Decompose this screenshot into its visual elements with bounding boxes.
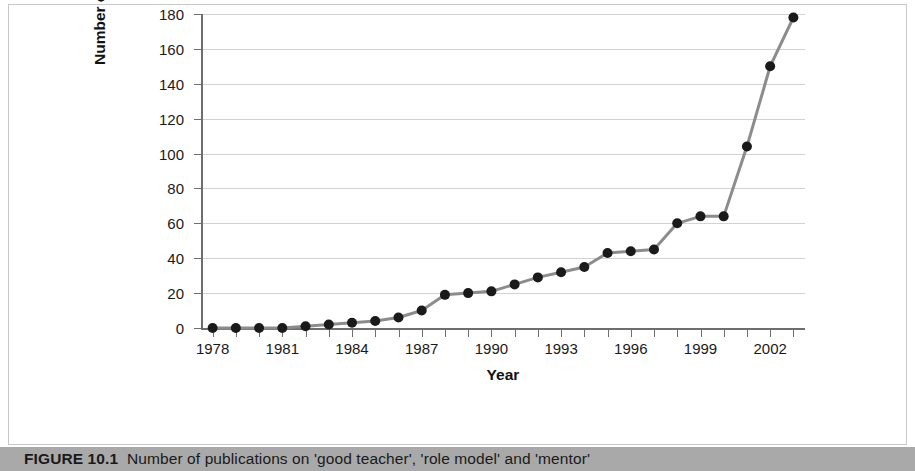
x-axis-tick-label: 2002 (754, 340, 787, 357)
y-axis-tick: 20 (194, 293, 201, 294)
x-axis-tick-label: 1990 (475, 340, 508, 357)
data-point-marker (277, 323, 287, 333)
x-axis-tick (677, 329, 678, 337)
y-axis-tick-label: 60 (167, 215, 184, 232)
y-axis-tick: 180 (194, 14, 201, 15)
data-point-marker (231, 323, 241, 333)
data-point-marker (556, 267, 566, 277)
data-point-marker (417, 306, 427, 316)
data-point-marker (486, 286, 496, 296)
y-axis-tick-label: 160 (159, 40, 184, 57)
data-point-marker (719, 211, 729, 221)
x-axis-tick-label: 1999 (684, 340, 717, 357)
y-axis-tick: 80 (194, 188, 201, 189)
x-axis-tick (724, 329, 725, 337)
y-axis-tick-label: 40 (167, 250, 184, 267)
x-axis-tick (399, 329, 400, 337)
x-axis-tick (631, 329, 632, 337)
x-axis-tick (747, 329, 748, 337)
data-point-marker (347, 318, 357, 328)
x-axis-tick (352, 329, 353, 337)
x-axis-tick-label: 1978 (196, 340, 229, 357)
data-point-marker (533, 272, 543, 282)
y-axis-tick-label: 0 (176, 320, 184, 337)
data-point-marker (324, 320, 334, 330)
y-axis-tick: 120 (194, 119, 201, 120)
y-axis-tick: 40 (194, 258, 201, 259)
x-axis-tick-label: 1996 (614, 340, 647, 357)
data-point-marker (579, 262, 589, 272)
data-point-marker (393, 313, 403, 323)
data-point-marker (370, 316, 380, 326)
x-axis-tick (329, 329, 330, 337)
x-axis-tick (445, 329, 446, 337)
y-axis-tick: 160 (194, 49, 201, 50)
figure-panel: Number of publications 02040608010012014… (8, 4, 907, 445)
data-series-line (201, 14, 805, 330)
data-point-marker (463, 288, 473, 298)
x-axis-tick (375, 329, 376, 337)
y-axis-tick: 0 (194, 328, 201, 329)
figure-caption-bar: FIGURE 10.1 Number of publications on 'g… (0, 447, 915, 471)
data-point-marker (254, 323, 264, 333)
data-point-marker (626, 246, 636, 256)
x-axis-tick (468, 329, 469, 337)
y-axis-tick-label: 120 (159, 110, 184, 127)
x-axis-tick-label: 1984 (335, 340, 368, 357)
data-point-marker (510, 279, 520, 289)
x-axis-tick (584, 329, 585, 337)
data-point-marker (788, 12, 798, 22)
x-axis-tick (654, 329, 655, 337)
y-axis-label: Number of publications (91, 0, 109, 65)
x-axis-tick (561, 329, 562, 337)
y-axis-tick-label: 180 (159, 6, 184, 23)
x-axis-tick (422, 329, 423, 337)
x-axis-tick (538, 329, 539, 337)
y-axis-tick-label: 140 (159, 75, 184, 92)
data-point-marker (603, 248, 613, 258)
x-axis-tick-label: 1981 (266, 340, 299, 357)
data-point-marker (440, 290, 450, 300)
y-axis-tick-label: 80 (167, 180, 184, 197)
figure-page: Number of publications 02040608010012014… (0, 0, 915, 471)
x-axis-label: Year (201, 366, 805, 384)
y-axis-tick: 100 (194, 154, 201, 155)
x-axis-tick (701, 329, 702, 337)
y-axis-tick: 140 (194, 84, 201, 85)
data-point-marker (742, 142, 752, 152)
y-axis-tick-label: 20 (167, 285, 184, 302)
figure-number: FIGURE 10.1 (24, 450, 118, 467)
plot-area: 020406080100120140160180 197819811984198… (201, 14, 805, 328)
y-axis-tick-label: 100 (159, 145, 184, 162)
y-axis-tick: 60 (194, 223, 201, 224)
x-axis-tick (515, 329, 516, 337)
figure-caption: FIGURE 10.1 Number of publications on 'g… (24, 450, 590, 468)
data-point-marker (301, 321, 311, 331)
plot-wrapper: Number of publications 02040608010012014… (9, 5, 908, 446)
x-axis-tick-label: 1993 (544, 340, 577, 357)
data-point-marker (765, 61, 775, 71)
x-axis-tick (491, 329, 492, 337)
x-axis-tick (608, 329, 609, 337)
data-point-marker (695, 211, 705, 221)
x-axis-tick (770, 329, 771, 337)
x-axis-tick (793, 329, 794, 337)
figure-caption-text: Number of publications on 'good teacher'… (127, 450, 590, 467)
data-point-marker (672, 218, 682, 228)
data-point-marker (649, 245, 659, 255)
data-point-marker (208, 323, 218, 333)
x-axis-tick-label: 1987 (405, 340, 438, 357)
